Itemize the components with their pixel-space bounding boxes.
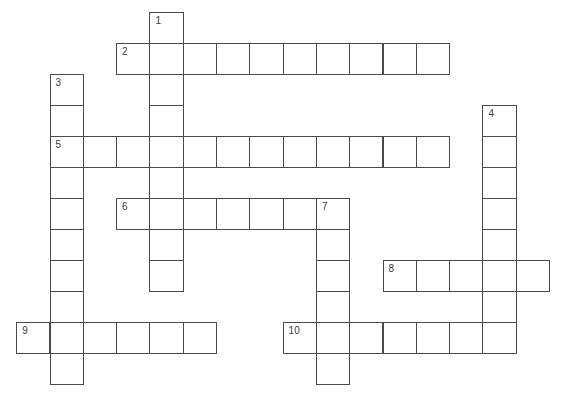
crossword-cell[interactable]: 10 (283, 322, 317, 354)
crossword-cell[interactable] (149, 322, 183, 354)
crossword-cell[interactable] (83, 136, 117, 168)
crossword-cell[interactable] (249, 43, 283, 75)
crossword-cell[interactable] (482, 229, 516, 261)
crossword-cell[interactable] (116, 322, 150, 354)
crossword-cell[interactable] (149, 229, 183, 261)
clue-number: 10 (289, 325, 300, 336)
crossword-cell[interactable] (482, 198, 516, 230)
crossword-cell[interactable] (316, 43, 350, 75)
clue-number: 4 (488, 108, 494, 119)
crossword-cell[interactable] (416, 322, 450, 354)
crossword-cell[interactable] (416, 43, 450, 75)
crossword-cell[interactable] (50, 198, 84, 230)
crossword-cell[interactable] (149, 198, 183, 230)
crossword-cell[interactable]: 1 (149, 12, 183, 44)
crossword-cell[interactable] (482, 136, 516, 168)
clue-number: 1 (155, 15, 161, 26)
crossword-cell[interactable] (149, 43, 183, 75)
crossword-cell[interactable] (516, 260, 550, 292)
crossword-cell[interactable] (149, 167, 183, 199)
crossword-cell[interactable] (316, 291, 350, 323)
crossword-cell[interactable]: 6 (116, 198, 150, 230)
crossword-cell[interactable] (416, 260, 450, 292)
crossword-cell[interactable] (183, 198, 217, 230)
crossword-cell[interactable] (482, 260, 516, 292)
clue-number: 7 (322, 201, 328, 212)
crossword-cell[interactable] (416, 136, 450, 168)
crossword-cell[interactable] (50, 167, 84, 199)
clue-number: 8 (389, 263, 395, 274)
crossword-cell[interactable] (149, 136, 183, 168)
crossword-cell[interactable]: 3 (50, 74, 84, 106)
crossword-cell[interactable] (482, 322, 516, 354)
crossword-cell[interactable] (383, 322, 417, 354)
crossword-cell[interactable] (50, 260, 84, 292)
crossword-cell[interactable] (316, 260, 350, 292)
crossword-cell[interactable] (482, 167, 516, 199)
crossword-cell[interactable] (183, 322, 217, 354)
crossword-cell[interactable] (50, 322, 84, 354)
crossword-cell[interactable] (349, 43, 383, 75)
crossword-cell[interactable] (482, 291, 516, 323)
crossword-cell[interactable]: 9 (16, 322, 50, 354)
crossword-cell[interactable] (316, 229, 350, 261)
crossword-cell[interactable] (449, 322, 483, 354)
crossword-cell[interactable] (183, 43, 217, 75)
crossword-cell[interactable] (349, 322, 383, 354)
crossword-cell[interactable] (383, 43, 417, 75)
clue-number: 9 (22, 325, 28, 336)
crossword-cell[interactable] (383, 136, 417, 168)
crossword-grid: 12354678910 (0, 0, 563, 402)
crossword-cell[interactable] (50, 353, 84, 385)
clue-number: 5 (56, 139, 62, 150)
crossword-cell[interactable] (50, 105, 84, 137)
crossword-cell[interactable]: 7 (316, 198, 350, 230)
crossword-cell[interactable] (316, 322, 350, 354)
crossword-cell[interactable] (249, 136, 283, 168)
crossword-cell[interactable] (116, 136, 150, 168)
crossword-cell[interactable]: 4 (482, 105, 516, 137)
crossword-cell[interactable]: 2 (116, 43, 150, 75)
crossword-cell[interactable] (283, 136, 317, 168)
crossword-cell[interactable] (316, 353, 350, 385)
crossword-cell[interactable] (449, 260, 483, 292)
crossword-cell[interactable] (83, 322, 117, 354)
clue-number: 3 (56, 77, 62, 88)
crossword-cell[interactable] (349, 136, 383, 168)
crossword-cell[interactable] (216, 136, 250, 168)
crossword-cell[interactable] (316, 136, 350, 168)
crossword-cell[interactable] (149, 74, 183, 106)
crossword-cell[interactable] (283, 198, 317, 230)
crossword-cell[interactable] (216, 43, 250, 75)
crossword-cell[interactable] (249, 198, 283, 230)
crossword-cell[interactable] (50, 291, 84, 323)
crossword-cell[interactable] (50, 229, 84, 261)
crossword-cell[interactable] (149, 105, 183, 137)
crossword-cell[interactable]: 8 (383, 260, 417, 292)
crossword-cell[interactable] (216, 198, 250, 230)
crossword-cell[interactable]: 5 (50, 136, 84, 168)
clue-number: 2 (122, 46, 128, 57)
crossword-cell[interactable] (183, 136, 217, 168)
clue-number: 6 (122, 201, 128, 212)
crossword-cell[interactable] (149, 260, 183, 292)
crossword-cell[interactable] (283, 43, 317, 75)
